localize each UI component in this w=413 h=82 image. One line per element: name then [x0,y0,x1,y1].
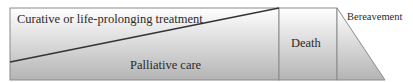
curative-label: Curative or life-prolonging treatment [17,12,203,27]
bereavement-label: Bereavement [347,11,402,22]
palliative-label: Palliative care [130,58,201,73]
death-label: Death [291,36,321,51]
